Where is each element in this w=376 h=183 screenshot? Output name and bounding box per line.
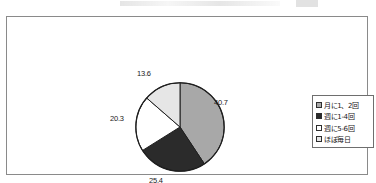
legend-label-0: 月に1、2回: [324, 100, 359, 110]
legend-label-1: 週に1-4回: [324, 111, 354, 121]
legend-swatch-icon-3: [316, 136, 322, 142]
pie-label-2: 20.3: [110, 114, 124, 123]
legend-item-1: 週に1-4回: [316, 111, 371, 123]
legend-swatch-icon-1: [316, 113, 322, 119]
legend-swatch-icon-0: [316, 102, 322, 108]
legend-label-3: ほぼ毎日: [324, 134, 351, 144]
pie-chart: [134, 81, 226, 173]
pie-label-3: 13.6: [137, 69, 151, 78]
pie-chart-svg: [134, 81, 226, 173]
scan-artifact-top-right: [296, 0, 318, 7]
legend-label-2: 週に5-6回: [324, 123, 354, 133]
pie-label-1: 25.4: [149, 176, 163, 182]
chart-frame: 40.7 25.4 20.3 13.6 月に1、2回 週に1-4回 週に5-6回…: [6, 16, 368, 175]
scan-artifact-top: [120, 1, 280, 6]
chart-legend: 月に1、2回 週に1-4回 週に5-6回 ほぼ毎日: [312, 95, 374, 148]
legend-item-0: 月に1、2回: [316, 99, 371, 111]
legend-item-2: 週に5-6回: [316, 122, 371, 134]
legend-swatch-icon-2: [316, 125, 322, 131]
legend-item-3: ほぼ毎日: [316, 134, 371, 146]
pie-label-0: 40.7: [214, 98, 228, 107]
